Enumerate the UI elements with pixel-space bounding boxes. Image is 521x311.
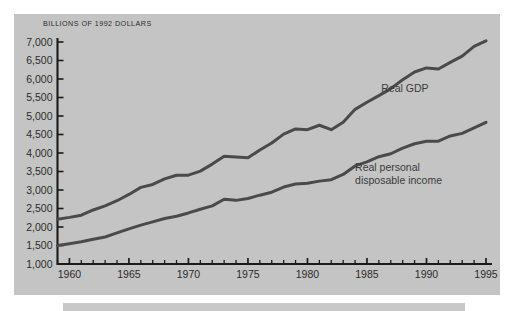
plot-area xyxy=(0,0,521,311)
series-annotation-line: Real GDP xyxy=(381,82,428,95)
series-annotation-line: Real personal xyxy=(355,161,442,174)
y-axis-tick-label: 1,000 xyxy=(0,259,53,270)
x-axis-tick-label: 1990 xyxy=(406,269,446,280)
y-axis-tick-label: 3,500 xyxy=(0,166,53,177)
x-axis-tick-label: 1980 xyxy=(287,269,327,280)
y-axis-tick-label: 5,500 xyxy=(0,92,53,103)
x-axis-tick-label: 1975 xyxy=(228,269,268,280)
series-annotation-real-disposable-income: Real personaldisposable income xyxy=(355,161,442,186)
y-axis-tick-label: 4,000 xyxy=(0,148,53,159)
x-axis-tick-label: 1965 xyxy=(109,269,149,280)
y-axis-tick-label: 5,000 xyxy=(0,111,53,122)
y-axis-tick-label: 6,500 xyxy=(0,55,53,66)
y-axis-tick-label: 2,000 xyxy=(0,222,53,233)
series-annotation-line: disposable income xyxy=(355,174,442,187)
series-annotation-real-gdp: Real GDP xyxy=(381,82,428,95)
x-axis-tick-label: 1995 xyxy=(466,269,506,280)
x-axis-tick-label: 1960 xyxy=(49,269,89,280)
y-axis-tick-label: 6,000 xyxy=(0,74,53,85)
x-axis-tick-label: 1970 xyxy=(168,269,208,280)
y-axis-tick-label: 3,000 xyxy=(0,185,53,196)
chart-figure: BILLIONS OF 1992 DOLLARS 7,0006,5006,000… xyxy=(0,0,521,311)
y-axis-tick-label: 2,500 xyxy=(0,203,53,214)
y-axis-tick-label: 1,500 xyxy=(0,240,53,251)
y-axis-tick-label: 4,500 xyxy=(0,129,53,140)
y-axis-tick-label: 7,000 xyxy=(0,37,53,48)
x-axis-tick-label: 1985 xyxy=(347,269,387,280)
